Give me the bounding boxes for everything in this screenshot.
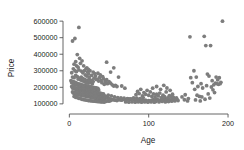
data-point (192, 69, 196, 73)
data-point (164, 90, 168, 94)
data-point (168, 88, 172, 92)
data-point (196, 85, 200, 89)
data-point (112, 66, 116, 70)
data-point (117, 75, 121, 79)
data-point (105, 60, 109, 64)
data-point (159, 87, 163, 91)
data-point (145, 88, 149, 92)
data-point (93, 72, 97, 76)
data-point (162, 83, 166, 87)
data-point (208, 96, 212, 100)
data-point (139, 87, 143, 91)
data-point (109, 70, 113, 74)
data-point (82, 64, 86, 68)
y-tick-label: 100000 (34, 99, 58, 108)
data-point (70, 71, 74, 75)
data-point (202, 34, 206, 38)
data-point (213, 91, 217, 95)
data-point (189, 76, 193, 80)
data-point (204, 44, 208, 48)
data-point (155, 85, 159, 89)
data-point (106, 82, 110, 86)
data-point (221, 19, 225, 23)
y-tick-label: 600000 (34, 17, 58, 26)
data-point (206, 92, 210, 96)
x-tick-label: 100 (143, 119, 155, 128)
data-point (176, 99, 180, 103)
data-point (151, 86, 155, 90)
scatter-plot-chart: 100000200000300000400000500000600000 010… (0, 0, 244, 150)
data-point (219, 80, 223, 84)
data-point (101, 75, 105, 79)
data-point (123, 86, 127, 90)
data-point (194, 75, 198, 79)
data-point (136, 90, 140, 94)
data-point (194, 98, 198, 102)
data-point (106, 93, 110, 97)
data-point (188, 35, 192, 39)
data-point (195, 93, 199, 97)
data-point (207, 74, 211, 78)
data-point (198, 99, 202, 103)
data-point (124, 100, 128, 104)
data-point (75, 53, 79, 57)
data-point (73, 37, 77, 41)
data-point (205, 84, 209, 88)
data-point (209, 44, 213, 48)
data-points (69, 19, 224, 104)
y-tick-label: 300000 (34, 66, 58, 75)
data-point (190, 81, 194, 85)
data-point (199, 82, 203, 86)
data-point (200, 95, 204, 99)
data-point (171, 95, 175, 99)
data-point (86, 68, 90, 72)
y-tick-label: 500000 (34, 33, 58, 42)
data-point (77, 26, 81, 30)
x-axis-title: Age (141, 136, 156, 145)
data-point (163, 100, 167, 104)
y-axis-title: Price (7, 58, 16, 77)
data-point (80, 59, 84, 63)
data-point (91, 80, 95, 84)
data-point (217, 76, 221, 80)
x-tick-label: 0 (67, 119, 71, 128)
y-axis: 100000200000300000400000500000600000 (34, 17, 63, 109)
data-point (160, 99, 164, 103)
data-point (120, 84, 124, 88)
data-point (203, 97, 207, 101)
data-point (158, 91, 162, 95)
y-tick-label: 400000 (34, 50, 58, 59)
y-tick-label: 200000 (34, 83, 58, 92)
data-point (201, 86, 205, 90)
data-point (183, 93, 187, 97)
data-point (209, 85, 213, 89)
x-tick-label: 200 (222, 119, 234, 128)
data-point (113, 95, 117, 99)
data-point (142, 91, 146, 95)
data-point (115, 85, 119, 89)
x-axis: 0100200 (67, 114, 234, 128)
data-point (161, 93, 165, 97)
data-point (94, 77, 98, 81)
plot-canvas: 100000200000300000400000500000600000 010… (0, 0, 244, 150)
data-point (165, 86, 169, 90)
data-point (210, 79, 214, 83)
data-point (186, 99, 190, 103)
data-point (193, 87, 197, 91)
